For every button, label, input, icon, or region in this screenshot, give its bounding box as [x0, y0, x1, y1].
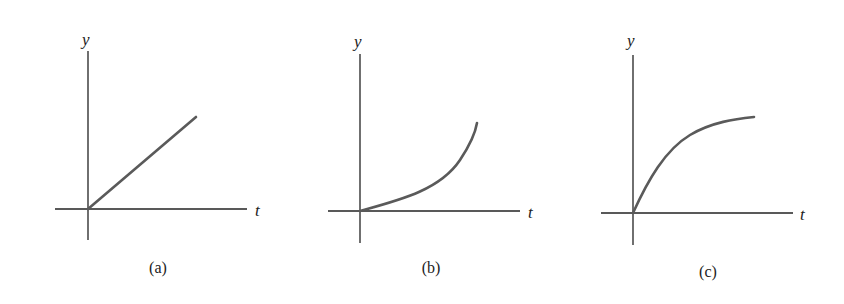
- saturating-curve: [633, 117, 754, 213]
- panel-caption: (b): [422, 259, 441, 277]
- y-axis-label: y: [625, 31, 635, 50]
- exponential-curve: [360, 123, 477, 211]
- linear-curve: [88, 117, 196, 209]
- x-axis-label: t: [800, 205, 806, 224]
- y-axis-label: y: [80, 30, 90, 49]
- panel-b: y t (b): [328, 32, 534, 277]
- panel-a: y t (a): [55, 30, 261, 277]
- x-axis-label: t: [528, 203, 534, 222]
- panel-caption: (a): [149, 259, 167, 277]
- figure-canvas: y t (a) y t (b) y t (c): [0, 0, 844, 304]
- y-axis-label: y: [352, 32, 362, 51]
- panel-c: y t (c): [601, 31, 806, 281]
- x-axis-label: t: [255, 201, 261, 220]
- panel-caption: (c): [699, 263, 717, 281]
